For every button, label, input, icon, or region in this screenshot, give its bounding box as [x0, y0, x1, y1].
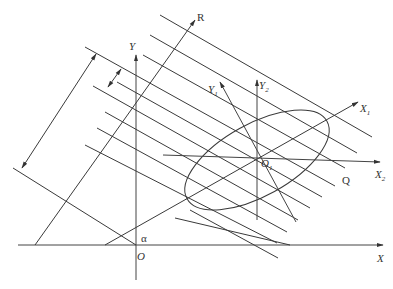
r-axis [35, 20, 195, 245]
y1-axis-label: Y1 [208, 83, 218, 98]
x2-axis [163, 155, 380, 162]
q-label: Q [342, 174, 350, 186]
ellipse-major-axis [105, 102, 358, 245]
r-axis-label: R [197, 11, 205, 23]
y-axis-label: Y [129, 40, 137, 52]
origin-label: O [137, 250, 145, 262]
angle-label: α [141, 232, 147, 244]
geometry-diagram: R Y X O α Q X1 X2 Y1 Y2 O1 [0, 0, 393, 289]
x2-axis-label: X2 [374, 168, 386, 183]
dimension-total-width [22, 54, 96, 168]
x-axis-label: X [376, 252, 385, 264]
o1-label: O1 [261, 157, 272, 172]
parallel-lines [13, 15, 372, 245]
dimension-line-spacing [108, 69, 121, 87]
y2-axis-label: Y2 [259, 79, 269, 94]
tail-lines [175, 210, 290, 258]
x1-axis-label: X1 [359, 102, 370, 117]
